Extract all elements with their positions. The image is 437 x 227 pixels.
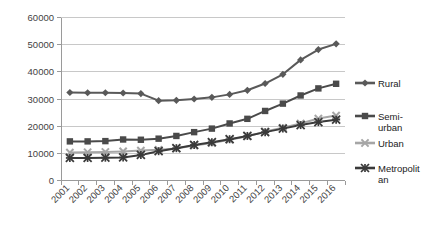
data-point-marker — [172, 144, 180, 152]
y-axis-tick-label: 40000 — [28, 66, 54, 77]
legend: RuralSemi-urbanUrbanMetropolitan — [355, 78, 420, 186]
x-axis-tick-label: 2005 — [120, 182, 143, 205]
data-point-marker — [209, 125, 215, 131]
data-point-marker — [226, 135, 234, 143]
data-point-marker — [361, 164, 369, 172]
data-point-marker — [155, 147, 163, 155]
chart-canvas: 0100002000030000400005000060000 20012002… — [0, 0, 437, 227]
data-point-marker — [208, 138, 216, 146]
y-axis-labels-group: 0100002000030000400005000060000 — [28, 12, 54, 186]
data-point-marker — [101, 154, 109, 162]
data-point-marker — [208, 94, 215, 101]
data-point-marker — [297, 92, 303, 98]
legend-label: Rural — [378, 78, 401, 89]
data-point-marker — [84, 138, 90, 144]
data-point-marker — [137, 151, 145, 159]
legend-item-semi-urban[interactable]: Semi-urban — [355, 111, 403, 134]
data-point-marker — [226, 91, 233, 98]
data-point-marker — [333, 81, 339, 87]
data-point-marker — [66, 154, 74, 162]
data-point-marker — [226, 120, 232, 126]
data-point-marker — [173, 97, 180, 104]
y-axis-tick-label: 30000 — [28, 94, 54, 105]
data-point-marker — [138, 137, 144, 143]
x-axis-tick-label: 2016 — [315, 182, 338, 205]
x-axis-tick-label: 2010 — [208, 182, 231, 205]
data-point-marker — [102, 138, 108, 144]
legend-label-continued: an — [378, 174, 389, 185]
x-axis-labels-group: 2001200220032004200520062007200820092010… — [49, 182, 338, 205]
x-axis-tick-label: 2008 — [173, 182, 196, 205]
x-axis-tick-label: 2003 — [84, 182, 107, 205]
gridlines-group — [61, 18, 345, 154]
data-point-marker — [279, 125, 287, 133]
data-point-marker — [102, 89, 109, 96]
y-axis-tick-label: 10000 — [28, 148, 54, 159]
legend-item-rural[interactable]: Rural — [355, 78, 401, 89]
series-lines-group — [70, 44, 336, 158]
data-point-marker — [120, 89, 127, 96]
y-axis-tick-label: 20000 — [28, 121, 54, 132]
tick-marks-group — [57, 18, 345, 185]
data-point-marker — [262, 108, 268, 114]
x-axis-tick-label: 2012 — [244, 182, 267, 205]
data-point-marker — [119, 153, 127, 161]
legend-item-metropolitan[interactable]: Metropolitan — [355, 163, 420, 186]
legend-label-continued: urban — [378, 122, 402, 133]
y-axis-tick-label: 60000 — [28, 12, 54, 23]
x-axis-tick-label: 2002 — [66, 182, 89, 205]
data-point-marker — [67, 138, 73, 144]
data-point-marker — [155, 135, 161, 141]
y-axis-tick-label: 50000 — [28, 39, 54, 50]
data-point-marker — [244, 87, 251, 94]
series-line-urban — [70, 116, 336, 153]
y-axis-tick-label: 0 — [49, 175, 54, 186]
data-point-marker — [120, 136, 126, 142]
x-axis-tick-label: 2007 — [155, 182, 178, 205]
data-point-marker — [84, 89, 91, 96]
data-point-marker — [66, 89, 73, 96]
data-point-marker — [361, 79, 368, 86]
data-point-marker — [84, 154, 92, 162]
data-point-marker — [280, 100, 286, 106]
x-axis-tick-label: 2004 — [102, 182, 125, 205]
data-point-marker — [155, 97, 162, 104]
x-axis-tick-label: 2013 — [262, 182, 285, 205]
data-point-marker — [332, 116, 340, 124]
data-point-marker — [262, 80, 269, 87]
data-point-marker — [191, 129, 197, 135]
legend-item-urban[interactable]: Urban — [355, 138, 404, 149]
data-point-marker — [190, 141, 198, 149]
x-axis-tick-label: 2014 — [279, 182, 302, 205]
data-point-marker — [362, 113, 368, 119]
x-axis-tick-label: 2009 — [191, 182, 214, 205]
data-point-marker — [333, 40, 340, 47]
legend-label: Metropolit — [378, 163, 420, 174]
legend-label: Semi- — [378, 111, 403, 122]
x-axis-tick-label: 2011 — [227, 182, 249, 204]
x-axis-tick-label: 2006 — [137, 182, 160, 205]
data-point-marker — [191, 95, 198, 102]
data-point-marker — [315, 85, 321, 91]
data-point-marker — [243, 132, 251, 140]
data-point-marker — [137, 90, 144, 97]
data-point-marker — [244, 116, 250, 122]
x-axis-tick-label: 2015 — [297, 182, 320, 205]
legend-label: Urban — [378, 138, 404, 149]
data-point-marker — [314, 118, 322, 126]
line-chart: 0100002000030000400005000060000 20012002… — [0, 0, 437, 227]
data-point-marker — [173, 133, 179, 139]
data-point-marker — [297, 121, 305, 129]
data-point-marker — [261, 128, 269, 136]
